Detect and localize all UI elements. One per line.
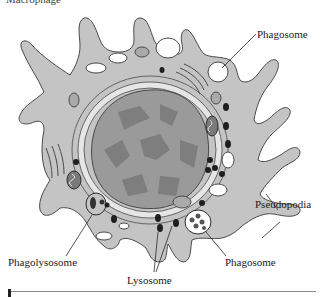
divider-marker [8, 289, 11, 297]
label-phagolysosome: Phagolysosome [8, 257, 77, 268]
figure-divider [8, 291, 316, 292]
label-lysosome: Lysosome [127, 275, 172, 286]
macrophage-diagram [0, 0, 329, 297]
label-pseudopodia: Pseudopodia [255, 199, 311, 210]
label-phagosome-top: Phagosome [257, 29, 308, 40]
label-phagosome-bottom: Phagosome [225, 257, 276, 268]
